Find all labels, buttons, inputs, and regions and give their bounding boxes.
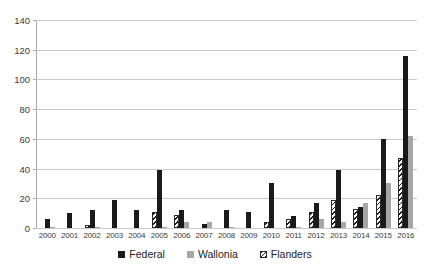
bar-wallonia-2013: [341, 222, 346, 228]
bar-group-2009: [238, 20, 260, 228]
bar-group-2013: [327, 20, 349, 228]
y-tick-mark-0: [33, 228, 36, 229]
bar-group-2005: [148, 20, 170, 228]
bar-chart: 020406080100120140 200020012002200320042…: [0, 0, 430, 274]
x-tick-label-2016: 2016: [395, 231, 417, 240]
bar-federal-2004: [134, 210, 139, 228]
bar-wallonia-2007: [207, 222, 212, 228]
bar-federal-2003: [112, 200, 117, 228]
bar-federal-2008: [224, 210, 229, 228]
bar-wallonia-2012: [319, 219, 324, 228]
x-tick-label-2005: 2005: [148, 231, 170, 240]
x-tick-label-2012: 2012: [305, 231, 327, 240]
bar-group-2000: [36, 20, 58, 228]
x-tick-label-2010: 2010: [260, 231, 282, 240]
chart-legend: FederalWalloniaFlanders: [0, 248, 430, 260]
bar-group-2008: [215, 20, 237, 228]
x-tick-label-2014: 2014: [350, 231, 372, 240]
bar-wallonia-2006: [184, 222, 189, 228]
bar-group-2015: [372, 20, 394, 228]
bar-federal-2005: [157, 170, 162, 228]
x-tick-label-2000: 2000: [36, 231, 58, 240]
gridline-0: 0: [36, 228, 417, 229]
x-tick-label-2002: 2002: [81, 231, 103, 240]
bar-group-2014: [350, 20, 372, 228]
bar-group-2011: [282, 20, 304, 228]
bar-federal-2009: [246, 212, 251, 228]
x-tick-label-2003: 2003: [103, 231, 125, 240]
x-tick-label-2004: 2004: [126, 231, 148, 240]
legend-item-wallonia[interactable]: Wallonia: [187, 248, 238, 260]
bar-group-2007: [193, 20, 215, 228]
bar-group-2002: [81, 20, 103, 228]
bar-wallonia-2008: [229, 227, 234, 228]
legend-swatch-federal-icon: [118, 251, 125, 258]
legend-swatch-flanders-icon: [260, 251, 267, 258]
bar-federal-2010: [269, 183, 274, 228]
bar-wallonia-2005: [162, 227, 167, 228]
x-tick-label-2001: 2001: [58, 231, 80, 240]
bar-group-2012: [305, 20, 327, 228]
bar-group-2006: [170, 20, 192, 228]
legend-label-federal: Federal: [129, 248, 165, 260]
bar-group-2010: [260, 20, 282, 228]
plot-area: 020406080100120140: [36, 20, 417, 228]
legend-label-wallonia: Wallonia: [198, 248, 238, 260]
x-tick-label-2007: 2007: [193, 231, 215, 240]
x-tick-label-2006: 2006: [170, 231, 192, 240]
x-tick-label-2008: 2008: [215, 231, 237, 240]
bar-wallonia-2000: [50, 227, 55, 228]
bar-federal-2013: [336, 170, 341, 228]
legend-item-flanders[interactable]: Flanders: [260, 248, 312, 260]
bar-wallonia-2011: [296, 227, 301, 228]
legend-label-flanders: Flanders: [271, 248, 312, 260]
x-tick-label-2013: 2013: [327, 231, 349, 240]
bar-group-2004: [126, 20, 148, 228]
legend-item-federal[interactable]: Federal: [118, 248, 165, 260]
bar-wallonia-2002: [95, 227, 100, 228]
bar-federal-2002: [90, 210, 95, 228]
x-tick-label-2011: 2011: [282, 231, 304, 240]
bar-wallonia-2015: [386, 183, 391, 228]
bar-wallonia-2014: [363, 203, 368, 228]
x-tick-label-2009: 2009: [238, 231, 260, 240]
bar-group-2003: [103, 20, 125, 228]
bar-group-2016: [395, 20, 417, 228]
legend-swatch-wallonia-icon: [187, 251, 194, 258]
x-axis-tick-labels: 2000200120022003200420052006200720082009…: [36, 231, 417, 240]
bar-groups: [36, 20, 417, 228]
bar-wallonia-2016: [408, 136, 413, 228]
x-tick-label-2015: 2015: [372, 231, 394, 240]
bar-federal-2001: [67, 213, 72, 228]
bar-group-2001: [58, 20, 80, 228]
